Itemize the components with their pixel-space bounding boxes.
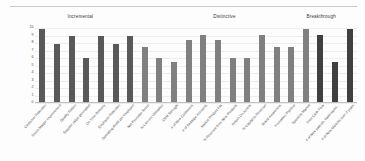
y-tick-label: 7 — [32, 49, 34, 53]
bar — [186, 40, 192, 102]
y-tick-label: 1 — [32, 94, 34, 98]
y-tick-label: 6 — [32, 56, 34, 60]
y-tick-label: 4 — [32, 71, 34, 75]
plot-area: 109876543210 — [35, 28, 357, 103]
y-tick-label: 9 — [32, 34, 34, 38]
y-tick-label: 2 — [32, 86, 34, 90]
x-axis-label-row: Customer RetentionGross Margin Improveme… — [35, 104, 365, 161]
bar — [288, 47, 294, 102]
bar — [127, 36, 133, 102]
bar — [303, 29, 309, 102]
group-header-incremental: Incremental — [67, 14, 93, 19]
bar — [39, 29, 45, 102]
bar — [171, 62, 177, 102]
x-axis-label: Gross Margin Improvement — [32, 104, 63, 138]
bar — [200, 35, 206, 102]
bar — [332, 62, 338, 102]
group-header-breakthrough: Breakthrough — [306, 14, 335, 19]
y-tick-label: 0 — [32, 101, 34, 105]
bar — [259, 35, 265, 102]
bar — [142, 47, 148, 102]
bar — [69, 36, 75, 102]
group-header-distinctive: Distinctive — [213, 14, 236, 19]
bar — [113, 44, 119, 102]
bar — [98, 36, 104, 102]
bar-chart: IncrementalDistinctiveBreakthrough 10987… — [0, 0, 365, 161]
y-tick-label: 3 — [32, 79, 34, 83]
bar — [317, 35, 323, 102]
bar — [274, 47, 280, 102]
bar — [215, 40, 221, 102]
bar — [156, 58, 162, 102]
y-tick-label: 8 — [32, 41, 34, 45]
group-header-row: IncrementalDistinctiveBreakthrough — [0, 14, 365, 26]
y-tick-label: 10 — [30, 26, 34, 30]
bar — [54, 44, 60, 102]
top-divider — [10, 6, 357, 7]
bar — [244, 58, 250, 102]
y-tick-label: 5 — [32, 64, 34, 68]
x-axis-label: # of New Markets over 3 years — [321, 104, 355, 142]
bar — [230, 58, 236, 102]
bar — [83, 58, 89, 102]
bar — [347, 29, 353, 102]
